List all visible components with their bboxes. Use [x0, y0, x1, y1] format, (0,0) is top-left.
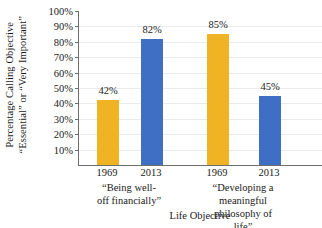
y-axis-tick-label: 80%: [54, 36, 73, 47]
y-axis-tick-labels: 10%20%30%40%50%60%70%80%90%100%: [34, 0, 76, 170]
y-axis-tickmark: [75, 134, 79, 135]
x-axis-title: Life Objective: [78, 210, 322, 221]
bar-value-label: 82%: [142, 24, 161, 35]
x-axis-group-label-line-2: off financially”: [97, 194, 161, 207]
x-axis-tick-labels: 1969201319692013: [78, 166, 322, 180]
x-axis-group-label-line-1: “Being well-: [97, 181, 161, 194]
y-axis-tickmark: [75, 119, 79, 120]
bar-chart-figure: Percentage Calling Objective “Essential”…: [0, 0, 322, 228]
gridline: [79, 42, 322, 43]
bar: [207, 34, 229, 165]
gridline: [79, 73, 322, 74]
x-axis-tick-label: 2013: [141, 167, 162, 178]
y-axis-tick-label: 40%: [54, 98, 73, 109]
y-axis-tick-label: 70%: [54, 52, 73, 63]
x-axis-tick-label: 2013: [259, 167, 280, 178]
y-axis-tickmark: [75, 88, 79, 89]
y-axis-tickmark: [75, 57, 79, 58]
y-axis-tick-label: 10%: [54, 144, 73, 155]
y-axis-tick-label: 50%: [54, 83, 73, 94]
gridline: [79, 26, 322, 27]
y-axis-tickmark: [75, 11, 79, 12]
bar-value-label: 42%: [98, 85, 117, 96]
bar-value-label: 45%: [260, 81, 279, 92]
y-axis-tickmark: [75, 73, 79, 74]
y-axis-tickmark: [75, 42, 79, 43]
bar: [141, 39, 163, 165]
y-axis-tick-label: 20%: [54, 129, 73, 140]
y-axis-tick-label: 100%: [49, 6, 74, 17]
gridline: [79, 57, 322, 58]
y-axis-title-line-2: “Essential” or “Very Important”: [17, 16, 30, 154]
x-axis-group-label: “Being well-off financially”: [97, 181, 161, 207]
x-axis-group-label-line-1: “Developing a meaningful: [204, 181, 283, 207]
y-axis-title: Percentage Calling Objective “Essential”…: [0, 0, 34, 170]
y-axis-tickmark: [75, 150, 79, 151]
y-axis-tick-label: 60%: [54, 67, 73, 78]
y-axis-tickmark: [75, 26, 79, 27]
bar: [259, 96, 281, 165]
x-axis-group-labels: “Being well-off financially”“Developing …: [78, 181, 322, 209]
y-axis-title-line-1: Percentage Calling Objective: [4, 16, 17, 154]
x-axis-tick-label: 1969: [97, 167, 118, 178]
y-axis-tick-label: 30%: [54, 113, 73, 124]
y-axis-tickmark: [75, 103, 79, 104]
bar: [97, 100, 119, 165]
bar-value-label: 85%: [208, 19, 227, 30]
x-axis-tick-label: 1969: [207, 167, 228, 178]
plot-inner: 42%82%85%45%: [79, 11, 322, 165]
plot-area: 42%82%85%45%: [78, 11, 322, 165]
y-axis-tick-label: 90%: [54, 21, 73, 32]
